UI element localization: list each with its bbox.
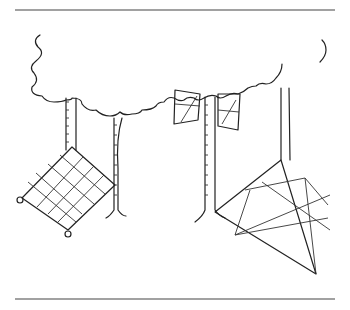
tree-trunks [66,88,290,222]
square-grid-net [17,147,115,237]
triangular-net [215,160,330,274]
net-illustration [0,0,350,310]
tree-canopy [31,35,282,116]
canopy-edge-right [320,40,326,62]
